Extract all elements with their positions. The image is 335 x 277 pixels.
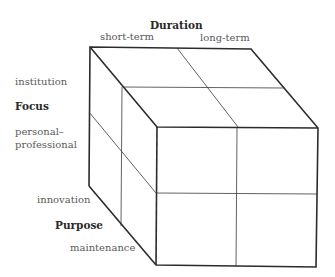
left-face-diagonal-divider [89,112,156,193]
focus-institution-label: institution [15,76,67,88]
front-face-vertical-divider [236,128,237,266]
cube-outline [89,47,318,267]
duration-long-term-label: long-term [200,32,250,44]
focus-personal-label: personal– [15,126,64,138]
focus-axis-title: Focus [15,100,49,112]
purpose-axis-title: Purpose [55,219,103,231]
left-face-vertical-divider [121,87,122,226]
top-face-horizontal-divider [123,87,285,88]
duration-short-term-label: short-term [100,31,154,43]
duration-axis-title: Duration [150,19,203,31]
focus-professional-label: professional [15,139,77,151]
cube-front-left-edge [156,127,157,265]
front-face-horizontal-divider [156,193,317,194]
purpose-innovation-label: innovation [37,194,90,206]
purpose-maintenance-label: maintenance [70,242,135,254]
